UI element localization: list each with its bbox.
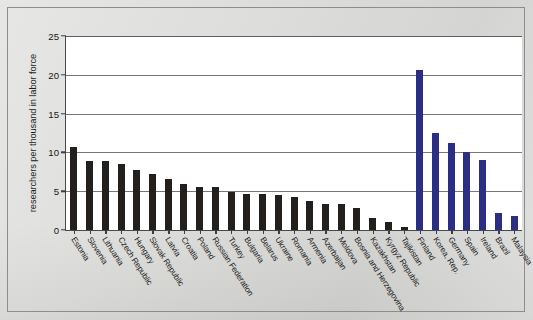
y-tick-label: 20 (48, 69, 59, 80)
bar (511, 216, 518, 230)
y-tick-label: 25 (48, 31, 59, 42)
x-tick-mark (467, 230, 468, 234)
bar (479, 160, 486, 230)
y-tick-label: 0 (54, 225, 59, 236)
x-tick-mark (168, 230, 169, 234)
x-tick-mark (436, 230, 437, 234)
y-axis-title: researchers per thousand in labor force (28, 38, 38, 228)
x-tick-mark (200, 230, 201, 234)
bar (416, 70, 423, 230)
bar (369, 218, 376, 230)
x-tick-mark (152, 230, 153, 234)
bar (228, 192, 235, 230)
x-axis-category-labels: EstoniaSloveniaLithuaniaCzech RepublicHu… (65, 236, 533, 320)
bar (275, 195, 282, 230)
x-tick-mark (184, 230, 185, 234)
bar-series (66, 36, 522, 230)
bar (212, 187, 219, 230)
x-axis-label: Malaysia (509, 236, 533, 267)
x-tick-mark (231, 230, 232, 234)
bar (291, 197, 298, 230)
x-tick-mark (514, 230, 515, 234)
x-tick-mark (294, 230, 295, 234)
bar (306, 201, 313, 230)
bar (338, 204, 345, 230)
bar (385, 222, 392, 230)
x-tick-mark (215, 230, 216, 234)
figure-frame: researchers per thousand in labor force … (7, 7, 525, 312)
x-tick-mark (404, 230, 405, 234)
bar (322, 204, 329, 230)
x-tick-mark (357, 230, 358, 234)
bar (118, 164, 125, 230)
x-tick-mark (373, 230, 374, 234)
y-tick-label: 15 (48, 108, 59, 119)
y-tick-label: 10 (48, 147, 59, 158)
bar (432, 133, 439, 230)
x-tick-mark (90, 230, 91, 234)
x-tick-mark (74, 230, 75, 234)
bar (353, 208, 360, 230)
bar (259, 194, 266, 230)
x-tick-mark (498, 230, 499, 234)
x-tick-mark (278, 230, 279, 234)
bar (149, 174, 156, 230)
plot-area: 0510152025 (65, 36, 522, 231)
bar (102, 161, 109, 230)
bar (448, 143, 455, 230)
bar (243, 194, 250, 230)
bar (86, 161, 93, 230)
bar (180, 184, 187, 230)
x-tick-mark (310, 230, 311, 234)
x-tick-mark (247, 230, 248, 234)
x-tick-mark (325, 230, 326, 234)
bar (495, 213, 502, 230)
bar (463, 152, 470, 230)
x-tick-mark (483, 230, 484, 234)
x-tick-mark (388, 230, 389, 234)
y-tick-label: 5 (54, 186, 59, 197)
bar (133, 170, 140, 230)
scanned-figure-page: researchers per thousand in labor force … (0, 0, 533, 320)
x-tick-mark (105, 230, 106, 234)
bar (165, 179, 172, 230)
x-tick-mark (263, 230, 264, 234)
x-tick-mark (420, 230, 421, 234)
x-tick-mark (121, 230, 122, 234)
bar (196, 187, 203, 230)
x-tick-mark (341, 230, 342, 234)
bar (70, 147, 77, 230)
x-tick-mark (137, 230, 138, 234)
x-tick-mark (451, 230, 452, 234)
